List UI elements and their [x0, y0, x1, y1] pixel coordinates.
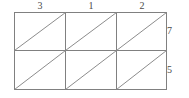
diagonal-row1-col1 [15, 13, 66, 51]
grid-lines-svg [0, 0, 189, 98]
diagonal-row2-col1 [15, 51, 66, 90]
row-2-height-label: 5 [167, 65, 179, 75]
row-1-height-label: 7 [167, 26, 179, 36]
column-3-length-label: 2 [132, 1, 152, 11]
diagonal-row1-col2 [66, 13, 117, 51]
grid-diagram: 3 1 2 7 5 [0, 0, 189, 98]
diagonal-row1-col3 [117, 13, 167, 51]
diagonal-row2-col3 [117, 51, 167, 90]
column-1-length-label: 3 [30, 1, 50, 11]
diagonal-row2-col2 [66, 51, 117, 90]
column-2-length-label: 1 [81, 1, 101, 11]
